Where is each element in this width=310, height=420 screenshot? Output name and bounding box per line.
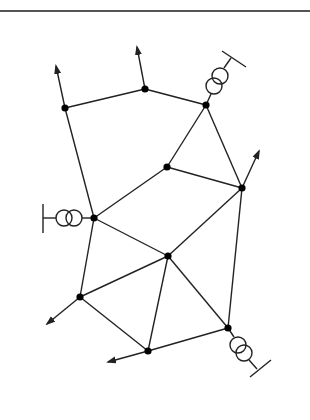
bus-node-N9: [144, 347, 151, 354]
bus-node-N3: [202, 101, 209, 108]
transmission-line-N7-N8: [80, 256, 168, 297]
load-arrow-icon: [108, 351, 148, 362]
transmission-line-N8-N9: [80, 297, 148, 351]
load-arrows: [47, 47, 259, 362]
bus-node-N10: [224, 324, 231, 331]
transmission-line-N3-N4: [167, 105, 206, 167]
transmission-line-N4-N6: [94, 167, 167, 218]
bus-node-N4: [163, 163, 170, 170]
bus-node-N1: [61, 104, 68, 111]
transformer-generator-icon: [228, 328, 271, 377]
transmission-line-N7-N9: [148, 256, 168, 351]
bus-node-N6: [90, 214, 97, 221]
transmission-line-N7-N10: [168, 256, 228, 328]
transmission-line-N6-N8: [80, 218, 94, 297]
transmission-line-N4-N5: [167, 167, 242, 188]
bus-node-N5: [238, 184, 245, 191]
load-arrow-icon: [56, 66, 65, 108]
transmission-line-N5-N10: [228, 188, 242, 328]
bus-node-N7: [164, 252, 171, 259]
bus-node-N8: [76, 293, 83, 300]
transmission-line-N3-N5: [206, 105, 242, 188]
bus-nodes: [61, 85, 245, 354]
bus-node-N2: [141, 85, 148, 92]
power-network-diagram: [0, 0, 310, 420]
load-arrow-icon: [137, 47, 145, 89]
transmission-line-N2-N3: [145, 89, 206, 105]
transmission-line-N6-N7: [94, 218, 168, 256]
transmission-line-N9-N10: [148, 328, 228, 351]
transformer-generator-icon: [206, 51, 246, 105]
transformer-generator-icon: [43, 204, 94, 233]
transmission-line-N1-N6: [65, 108, 94, 218]
load-arrow-icon: [47, 297, 80, 324]
load-arrow-icon: [242, 151, 259, 188]
transmission-line-N1-N2: [65, 89, 145, 108]
transmission-line-N5-N7: [168, 188, 242, 256]
